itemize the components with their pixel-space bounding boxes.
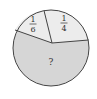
- label-one-sixth-den: 6: [30, 25, 35, 34]
- label-one-sixth-num: 1: [30, 15, 35, 24]
- pie-diagram: 1 6 1 4 ?: [0, 0, 97, 99]
- label-unknown: ?: [49, 57, 54, 67]
- pie-svg: 1 6 1 4 ?: [0, 0, 97, 99]
- label-one-quarter-num: 1: [61, 14, 66, 23]
- label-one-quarter-den: 4: [61, 24, 66, 33]
